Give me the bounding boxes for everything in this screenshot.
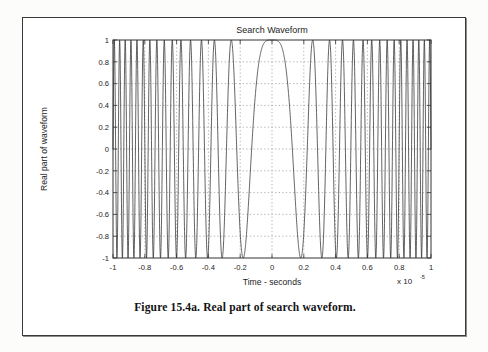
y-tick-label: 0: [105, 145, 109, 154]
y-tick-label: -0.2: [96, 167, 109, 176]
figure-caption: Figure 15.4a. Real part of search wavefo…: [23, 301, 467, 313]
x-tick-label: 0: [270, 263, 274, 272]
x-axis-exponent: x 10 -5: [397, 274, 425, 286]
chart-area: -1-0.8-0.6-0.4-0.200.20.40.60.81 -1-0.8-…: [23, 18, 467, 290]
x-tick-label: 1: [429, 263, 433, 272]
y-tick-label: -1: [102, 254, 109, 263]
scanned-page: -1-0.8-0.6-0.4-0.200.20.40.60.81 -1-0.8-…: [0, 0, 488, 352]
x-tick-label: -0.2: [234, 263, 247, 272]
x-tick-label: -1: [110, 263, 117, 272]
y-tick-label: -0.4: [96, 188, 109, 197]
x-tick-label: -0.6: [170, 263, 183, 272]
figure-box: -1-0.8-0.6-0.4-0.200.20.40.60.81 -1-0.8-…: [22, 17, 466, 336]
y-tick-label: 0.8: [98, 58, 109, 67]
x-tick-label: -0.8: [138, 263, 151, 272]
x-tick-label: 0.4: [330, 263, 341, 272]
x-axis-exponent-value: -5: [420, 274, 425, 280]
y-tick-labels: -1-0.8-0.6-0.4-0.200.20.40.60.81: [96, 36, 109, 263]
x-tick-label: 0.6: [362, 263, 373, 272]
x-tick-label: 0.2: [299, 263, 310, 272]
search-waveform-chart: -1-0.8-0.6-0.4-0.200.20.40.60.81 -1-0.8-…: [23, 18, 467, 290]
chart-title: Search Waveform: [236, 25, 308, 35]
y-tick-label: 1: [105, 36, 109, 45]
y-tick-label: 0.2: [98, 123, 109, 132]
x-tick-labels: -1-0.8-0.6-0.4-0.200.20.40.60.81: [110, 263, 434, 272]
x-tick-label: 0.8: [394, 263, 405, 272]
y-axis-label: Real part of waveform: [39, 107, 49, 191]
x-tick-label: -0.4: [202, 263, 215, 272]
y-tick-label: -0.8: [96, 232, 109, 241]
y-tick-label: 0.4: [98, 101, 109, 110]
x-axis-label: Time - seconds: [243, 277, 301, 287]
x-axis-exponent-base: x 10: [397, 277, 413, 286]
y-tick-label: -0.6: [96, 210, 109, 219]
y-tick-label: 0.6: [98, 79, 109, 88]
